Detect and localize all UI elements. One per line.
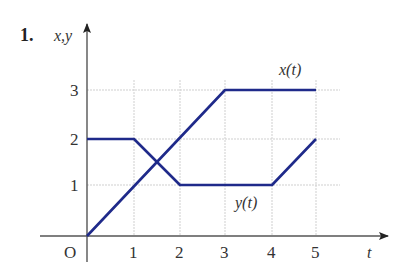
y-axis-label: x,y (53, 27, 73, 45)
legend-y-of-t: y(t) (233, 194, 257, 212)
legend-x-of-t: x(t) (278, 61, 301, 79)
series-x-of-t (87, 90, 316, 236)
x-axis-label: t (367, 244, 372, 261)
problem-number: 1. (20, 25, 34, 45)
y-tick-2: 2 (70, 130, 79, 149)
y-tick-1: 1 (70, 176, 79, 195)
y-tick-3: 3 (70, 81, 79, 100)
origin-label: O (64, 243, 76, 262)
series-y-of-t (87, 139, 316, 185)
chart: 1. x,y 3 2 1 O 1 2 3 4 5 t x(t) y(t) (0, 0, 409, 263)
x-tick-1: 1 (129, 243, 138, 262)
x-tick-5: 5 (311, 243, 320, 262)
x-tick-3: 3 (220, 243, 229, 262)
x-tick-4: 4 (267, 243, 276, 262)
x-tick-2: 2 (175, 243, 184, 262)
